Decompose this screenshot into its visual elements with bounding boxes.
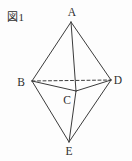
geometry-figure: 図1 A B C D E <box>0 0 132 161</box>
edge-B-D-hidden <box>32 80 111 81</box>
vertex-label-e: E <box>65 145 72 157</box>
edge-A-B <box>32 22 71 81</box>
vertex-label-c: C <box>63 94 71 106</box>
vertex-label-a: A <box>68 6 77 18</box>
edge-B-C <box>32 81 76 91</box>
vertex-label-d: D <box>114 74 122 86</box>
vertex-label-b: B <box>17 76 25 88</box>
edge-D-E <box>69 80 111 142</box>
edge-lines <box>32 22 111 142</box>
edge-B-E <box>32 81 69 142</box>
edge-C-D <box>76 80 111 91</box>
edge-A-D <box>71 22 111 80</box>
bipyramid-diagram: A B C D E <box>0 0 132 161</box>
